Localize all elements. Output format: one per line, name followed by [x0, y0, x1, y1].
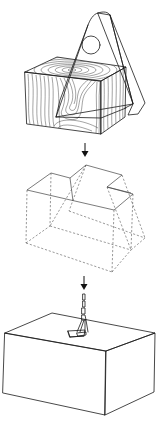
down-arrow-1	[82, 143, 89, 157]
stepped-top-outline	[27, 165, 133, 210]
stage-wood-block	[20, 12, 145, 134]
stage-wireframe	[26, 165, 145, 272]
stage-hoisted-box	[3, 294, 155, 415]
chain	[77, 294, 88, 333]
down-arrow-2	[81, 276, 88, 290]
illustration	[0, 0, 162, 422]
hidden-edges-dashed	[26, 165, 145, 272]
circular-hole	[82, 36, 100, 54]
large-box	[3, 313, 155, 415]
